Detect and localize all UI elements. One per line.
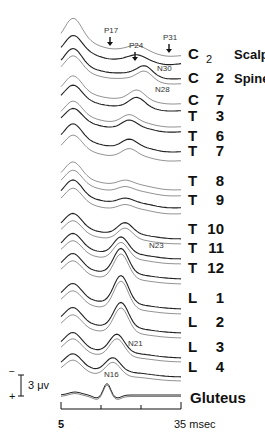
- gluteus-trace: [61, 383, 181, 397]
- gluteus-text: Gluteus: [190, 389, 246, 406]
- channel-number: 3: [206, 339, 224, 354]
- channel-label: C2Spine: [188, 70, 265, 86]
- channel-number: 2: [206, 314, 224, 329]
- waveform-trace: [61, 188, 181, 214]
- channel-level: T: [188, 240, 206, 255]
- channel-number: 6: [206, 128, 224, 143]
- scale-bar-pos-sign: +: [9, 390, 15, 402]
- peak-annotation: N28: [155, 85, 170, 94]
- channel-number: 3: [206, 108, 224, 123]
- peak-annotation: N30: [157, 64, 172, 73]
- channel-label: L4: [188, 359, 224, 374]
- channel-number: 2: [206, 70, 224, 85]
- waveform-trace: [61, 360, 181, 381]
- channel-level: C: [188, 46, 206, 61]
- peak-annotation: P17: [104, 26, 118, 35]
- channel-number: 12: [206, 260, 224, 275]
- channel-level: L: [188, 339, 206, 354]
- channel-label: C2Scalp: [188, 46, 265, 67]
- waveform-trace: [61, 213, 181, 239]
- channel-level: T: [188, 108, 206, 123]
- arrow-head-icon: [107, 42, 113, 46]
- channel-number: 8: [206, 173, 224, 188]
- channel-level: C: [188, 70, 206, 85]
- waveform-trace: [61, 354, 181, 377]
- arrow-head-icon: [166, 49, 172, 53]
- peak-annotation: P24: [129, 41, 143, 50]
- channel-level: L: [188, 290, 206, 305]
- channel-label: T12: [188, 260, 224, 275]
- channel-level: C: [188, 92, 206, 107]
- channel-level: T: [188, 221, 206, 236]
- waveform-trace: [61, 276, 181, 309]
- x-axis-start-label: 5: [58, 418, 64, 430]
- channel-label: T11: [188, 240, 224, 255]
- channel-label: C7: [188, 92, 224, 107]
- waveform-trace: [61, 308, 181, 338]
- channel-level: T: [188, 192, 206, 207]
- arrow-head-icon: [132, 57, 138, 61]
- scale-bar-neg-sign: −: [9, 366, 15, 377]
- channel-label: T7: [188, 143, 224, 158]
- channel-label: T10: [188, 221, 224, 236]
- channel-label: L2: [188, 314, 224, 329]
- channel-number: 11: [206, 240, 224, 255]
- channel-label: T8: [188, 173, 224, 188]
- channel-number: 7: [206, 92, 224, 107]
- channel-label: L1: [188, 290, 224, 305]
- waveform-trace: [61, 248, 181, 279]
- peak-annotation: N21: [128, 339, 143, 348]
- peak-annotation: N23: [149, 241, 164, 250]
- channel-label: T6: [188, 128, 224, 143]
- channel-label: L3: [188, 339, 224, 354]
- x-axis-end-label: 35 msec: [174, 418, 216, 430]
- waveform-trace: [61, 108, 181, 132]
- channel-number: 7: [206, 143, 224, 158]
- waveform-trace: [61, 333, 181, 358]
- channel-number: 4: [206, 359, 224, 374]
- channel-side: Spine: [234, 71, 265, 86]
- channel-level: T: [188, 173, 206, 188]
- waveform-trace: [61, 135, 181, 161]
- channel-level: L: [188, 314, 206, 329]
- waveform-trace: [61, 302, 181, 333]
- peak-annotation: N16: [104, 370, 119, 379]
- channel-side: Scalp: [234, 47, 265, 62]
- channel-number: 1: [206, 290, 224, 305]
- channel-level: L: [188, 359, 206, 374]
- waveform-trace: [61, 281, 181, 314]
- gluteus-label: Gluteus: [190, 390, 246, 405]
- channel-level: T: [188, 260, 206, 275]
- peak-annotation: P31: [163, 33, 177, 42]
- waveform-trace: [61, 124, 181, 152]
- channel-number: 9: [206, 192, 224, 207]
- channel-level: T: [188, 128, 206, 143]
- waveform-trace: [61, 339, 181, 362]
- channel-number: 2: [206, 52, 224, 67]
- channel-label: T9: [188, 192, 224, 207]
- waveform-trace: [61, 162, 181, 190]
- channel-number: 10: [206, 221, 224, 236]
- waveform-trace: [61, 180, 181, 208]
- channel-label: T3: [188, 108, 224, 123]
- channel-level: T: [188, 143, 206, 158]
- scale-bar-label: 3 μv: [28, 379, 49, 391]
